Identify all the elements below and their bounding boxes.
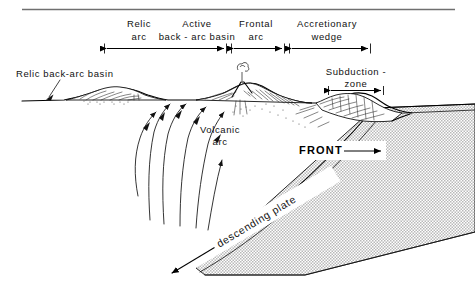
zone-label-frontal-arc-line1: Frontal	[239, 18, 273, 29]
volcano-plume-icon	[237, 63, 248, 81]
callout-subduction-zone-line2: zone	[344, 78, 367, 89]
zone-label-relic-arc-line2: arc	[132, 31, 147, 42]
zone-label-active-back-arc-basin-line2: back - arc basin	[159, 31, 236, 42]
zone-extent-bars	[105, 44, 371, 54]
leader-line-relic-basin	[49, 80, 60, 97]
cross-section-canvas: Relic arc Active back - arc basin Fronta…	[0, 0, 475, 295]
relic-arc-edifice	[66, 87, 166, 100]
callout-relic-back-arc-basin: Relic back-arc basin	[16, 68, 114, 79]
zone-label-accretionary-wedge-line1: Accretionary	[297, 18, 357, 29]
zone-label-frontal-arc-line2: arc	[249, 31, 264, 42]
callout-front: FRONT	[299, 144, 343, 156]
volcanic-frontal-arc-edifice	[196, 83, 312, 103]
callout-subduction-zone-line1: Subduction -	[326, 66, 387, 77]
callout-volcanic-arc-line2: arc	[213, 136, 228, 147]
zone-label-active-back-arc-basin-line1: Active	[182, 18, 211, 29]
callout-volcanic-arc-line1: Volcanic	[200, 124, 240, 135]
zone-label-accretionary-wedge-line2: wedge	[311, 31, 343, 42]
subduction-zone-cross-section-figure: Relic arc Active back - arc basin Fronta…	[0, 0, 475, 295]
zone-label-relic-arc-line1: Relic	[127, 18, 151, 29]
